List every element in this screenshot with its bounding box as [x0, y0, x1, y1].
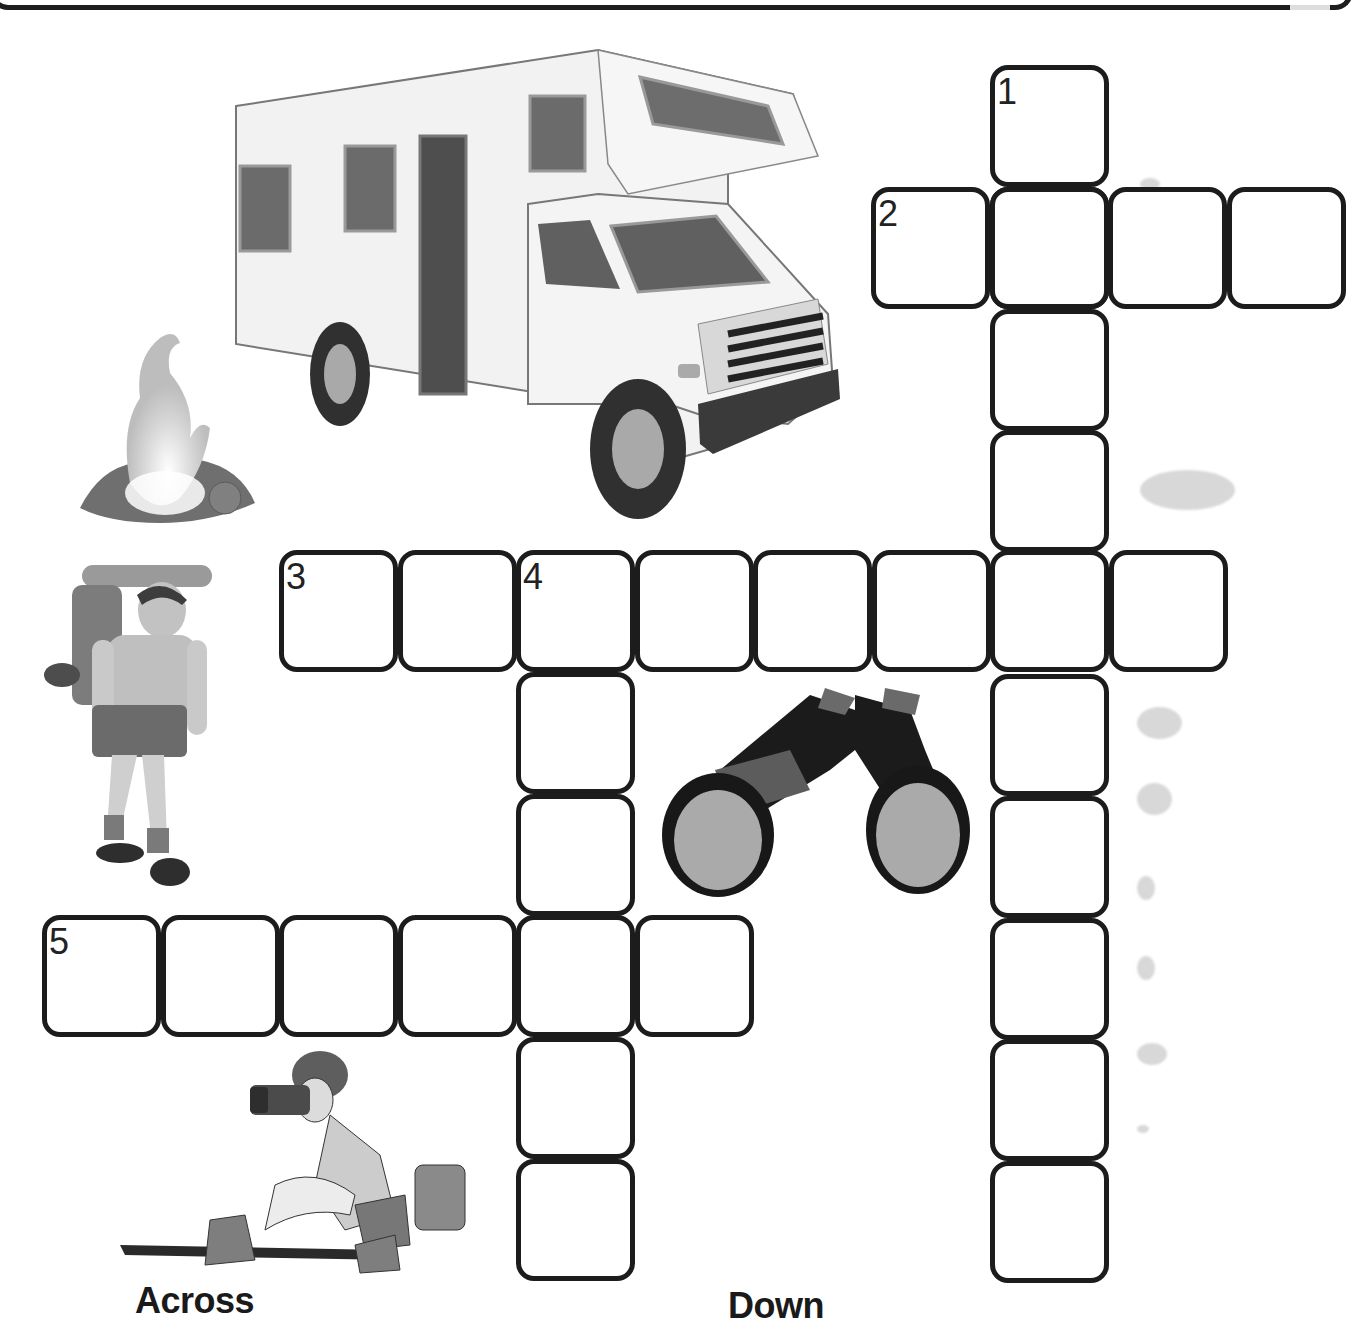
crossword-cell[interactable]: 2 — [871, 187, 990, 309]
cell-letter-input[interactable] — [1232, 192, 1341, 304]
cell-letter-input[interactable] — [47, 920, 156, 1032]
rv-motorhome-illustration — [228, 44, 848, 524]
cell-letter-input[interactable] — [1113, 192, 1222, 304]
photographer-illustration — [115, 1045, 475, 1290]
crossword-cell[interactable] — [516, 1159, 635, 1281]
cell-letter-input[interactable] — [876, 192, 985, 304]
crossword-cell[interactable] — [1109, 550, 1228, 672]
crossword-cell[interactable] — [1108, 187, 1227, 309]
crossword-cell[interactable] — [1227, 187, 1346, 309]
crossword-cell[interactable] — [990, 1161, 1109, 1283]
cell-letter-input[interactable] — [1114, 555, 1223, 667]
page-frame-top — [0, 0, 1353, 10]
crossword-cell[interactable] — [161, 915, 280, 1037]
cell-letter-input[interactable] — [995, 555, 1104, 667]
cell-letter-input[interactable] — [521, 799, 630, 911]
crossword-cell[interactable] — [990, 674, 1109, 796]
cell-letter-input[interactable] — [166, 920, 275, 1032]
crossword-cell[interactable] — [635, 550, 754, 672]
crossword-cell[interactable] — [990, 187, 1109, 309]
crossword-cell[interactable]: 1 — [990, 65, 1109, 187]
cell-letter-input[interactable] — [521, 1164, 630, 1276]
crossword-cell[interactable] — [398, 550, 517, 672]
cell-letter-input[interactable] — [758, 555, 867, 667]
crossword-cell[interactable] — [872, 550, 991, 672]
crossword-cell[interactable] — [516, 794, 635, 916]
crossword-cell[interactable] — [398, 915, 517, 1037]
cell-letter-input[interactable] — [995, 923, 1104, 1035]
crossword-cell[interactable] — [990, 796, 1109, 918]
down-heading: Down — [728, 1285, 824, 1327]
cell-letter-input[interactable] — [995, 1044, 1104, 1156]
cell-letter-input[interactable] — [403, 555, 512, 667]
cell-letter-input[interactable] — [521, 677, 630, 789]
crossword-cell[interactable]: 4 — [516, 550, 635, 672]
crossword-cell[interactable] — [516, 672, 635, 794]
cell-letter-input[interactable] — [640, 920, 749, 1032]
cell-letter-input[interactable] — [995, 70, 1104, 182]
crossword-cell[interactable] — [279, 915, 398, 1037]
crossword-cell[interactable] — [990, 1039, 1109, 1161]
crossword-cell[interactable] — [990, 550, 1109, 672]
crossword-cell[interactable] — [990, 309, 1109, 431]
cell-letter-input[interactable] — [403, 920, 512, 1032]
across-heading: Across — [135, 1280, 254, 1322]
cell-letter-input[interactable] — [521, 1042, 630, 1154]
cell-letter-input[interactable] — [521, 920, 630, 1032]
cell-letter-input[interactable] — [640, 555, 749, 667]
crossword-cell[interactable] — [516, 1037, 635, 1159]
crossword-cell[interactable] — [990, 430, 1109, 552]
cell-letter-input[interactable] — [877, 555, 986, 667]
frame-gap — [1290, 3, 1330, 12]
cell-letter-input[interactable] — [284, 920, 393, 1032]
cell-letter-input[interactable] — [995, 192, 1104, 304]
campfire-illustration — [60, 318, 270, 548]
cell-letter-input[interactable] — [995, 1166, 1104, 1278]
crossword-cell[interactable] — [516, 915, 635, 1037]
cell-letter-input[interactable] — [995, 679, 1104, 791]
cell-letter-input[interactable] — [521, 555, 630, 667]
cell-letter-input[interactable] — [284, 555, 393, 667]
binoculars-illustration — [660, 680, 980, 905]
crossword-cell[interactable] — [635, 915, 754, 1037]
cell-letter-input[interactable] — [995, 435, 1104, 547]
crossword-cell[interactable]: 3 — [279, 550, 398, 672]
crossword-cell[interactable]: 5 — [42, 915, 161, 1037]
cell-letter-input[interactable] — [995, 801, 1104, 913]
crossword-cell[interactable] — [753, 550, 872, 672]
backpacker-illustration — [42, 560, 232, 895]
crossword-cell[interactable] — [990, 918, 1109, 1040]
cell-letter-input[interactable] — [995, 314, 1104, 426]
